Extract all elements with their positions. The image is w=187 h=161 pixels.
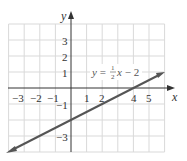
x-tick-label: 4	[131, 92, 137, 104]
y-tick-label: −1	[56, 99, 68, 111]
line-arrow-right-icon	[156, 72, 165, 78]
y-axis-label: y	[60, 9, 67, 23]
y-tick-label: −3	[56, 131, 68, 143]
equation-label: y = 1 2 x − 2	[90, 64, 142, 81]
x-axis-label: x	[171, 90, 178, 104]
x-tick-label: −2	[30, 92, 42, 104]
x-tick-label: −3	[12, 92, 24, 104]
y-tick-label: 1	[62, 67, 68, 79]
plotted-line	[6, 72, 165, 153]
eq-rest: − 2	[122, 66, 139, 78]
eq-denominator: 2	[111, 73, 115, 81]
eq-equals: =	[97, 66, 109, 78]
x-tick-label: 1	[84, 92, 90, 104]
y-tick-label: 2	[62, 51, 68, 63]
y-tick-label: 3	[62, 35, 68, 47]
axes	[8, 17, 170, 152]
eq-numerator: 1	[111, 64, 115, 72]
x-tick-label: 5	[146, 92, 152, 104]
y-axis-arrow-icon	[68, 11, 74, 19]
graph: y x −3 −2 −1 1 2 4 5 3 2 1 −1 −3 y = 1 2…	[0, 0, 187, 161]
